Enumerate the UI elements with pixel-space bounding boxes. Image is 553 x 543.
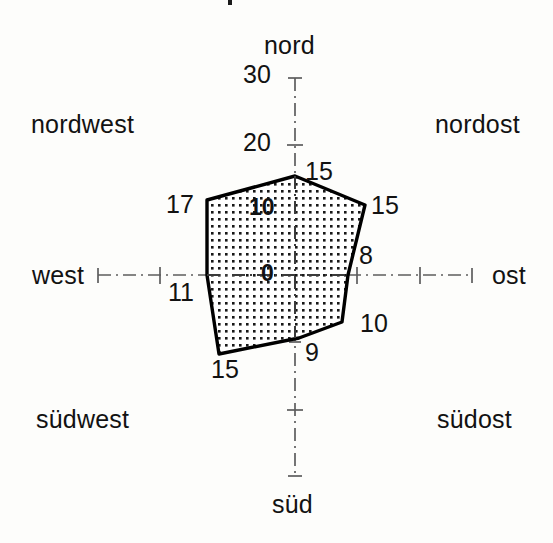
compass-label-west: west (32, 263, 84, 288)
value-label-suedwest: 15 (211, 357, 239, 382)
compass-label-nordwest: nordwest (31, 112, 134, 137)
compass-label-suedost: südost (437, 407, 512, 432)
value-label-nordwest: 17 (166, 192, 194, 217)
value-label-ost: 8 (359, 243, 373, 268)
value-label-nordost: 15 (371, 193, 399, 218)
value-label-west: 11 (168, 280, 194, 305)
value-label-nord: 15 (305, 159, 333, 184)
compass-label-nordost: nordost (435, 112, 520, 137)
data-polygon (207, 176, 365, 354)
wind-rose-figure: nord nordwest nordost west ost südwest s… (0, 0, 553, 543)
scale-label-0: 0 (261, 262, 274, 285)
compass-label-nord: nord (264, 33, 315, 58)
scale-label-20: 20 (243, 130, 271, 155)
compass-label-sued: süd (272, 492, 313, 517)
value-label-sued: 9 (305, 340, 319, 365)
compass-label-ost: ost (492, 263, 526, 288)
compass-label-suedwest: südwest (36, 407, 129, 432)
value-label-suedost: 10 (360, 311, 388, 336)
scale-label-30: 30 (243, 62, 271, 87)
scale-label-10: 10 (249, 196, 275, 219)
